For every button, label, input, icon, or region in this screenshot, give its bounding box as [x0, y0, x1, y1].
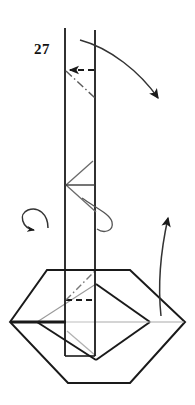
- inner-diamond-upper-right-edge: [96, 284, 150, 322]
- fold-over-arrow-top-right: [80, 40, 158, 98]
- inner-diamond-lower-left-edge: [37, 322, 96, 360]
- top-mountain-fold-dashdot: [66, 71, 95, 98]
- origami-step-figure: 27: [0, 0, 195, 405]
- vertical-column-group: [65, 28, 95, 356]
- fold-over-arrow-top-right-group: [80, 40, 158, 98]
- top-crease-group: [66, 70, 95, 98]
- hexagon-base-outline: [10, 270, 185, 383]
- zigzag-upper-diagonal: [66, 161, 93, 185]
- base-hidden-dashdot-diagonal: [66, 270, 96, 300]
- inner-diamond-lower-right-edge: [96, 322, 150, 360]
- step-number-label: 27: [34, 41, 50, 58]
- zigzag-lower-diagonal: [66, 185, 96, 212]
- hexagon-base-group: [10, 270, 185, 383]
- inner-diamond-upper-left-edge: [37, 284, 96, 322]
- rotate-arrow-left: [22, 209, 48, 230]
- figure-drawing-canvas: [0, 0, 195, 405]
- rotate-arrow-left-group: [22, 209, 48, 230]
